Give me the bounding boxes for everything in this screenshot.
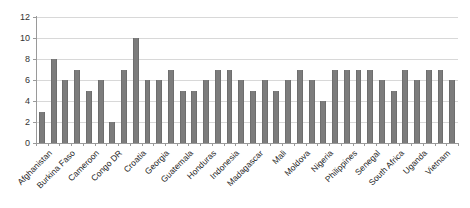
bar [109, 122, 115, 143]
bar [332, 70, 338, 144]
y-axis-tick-label: 6 [0, 75, 30, 85]
bar [39, 112, 45, 144]
x-axis-category-label-text: Vietnam [423, 148, 452, 177]
bar [367, 70, 373, 144]
bar [156, 80, 162, 143]
y-axis-tick-label: 10 [0, 33, 30, 43]
bar [449, 80, 455, 143]
bar [344, 70, 350, 144]
bar [168, 70, 174, 144]
bar [133, 38, 139, 143]
bar [238, 80, 244, 143]
bar [426, 70, 432, 144]
bar [51, 59, 57, 143]
bar [121, 70, 127, 144]
bar [309, 80, 315, 143]
bar [356, 70, 362, 144]
y-axis-tick-label: 12 [0, 12, 30, 22]
bar [180, 91, 186, 144]
bar [74, 70, 80, 144]
bar [250, 91, 256, 144]
bar [98, 80, 104, 143]
y-axis-tick-label: 8 [0, 54, 30, 64]
y-axis-tick-label: 2 [0, 117, 30, 127]
bar [438, 70, 444, 144]
bar [191, 91, 197, 144]
bar [62, 80, 68, 143]
bar [414, 80, 420, 143]
bar [203, 80, 209, 143]
x-axis-labels: AfghanistanBurkina FasoCameroonCongo DRC… [0, 146, 470, 208]
bar-series [36, 17, 458, 143]
bar [273, 91, 279, 144]
x-axis-category-label: Mali [270, 148, 288, 166]
bar [215, 70, 221, 144]
bar [285, 80, 291, 143]
bar [86, 91, 92, 144]
x-axis-category-label-text: Mali [270, 148, 288, 166]
bar [379, 80, 385, 143]
bar [320, 101, 326, 143]
bar [402, 70, 408, 144]
bar [391, 91, 397, 144]
x-axis-category-label: Vietnam [423, 148, 452, 177]
bar [227, 70, 233, 144]
bar [145, 80, 151, 143]
y-axis-tick-label: 4 [0, 96, 30, 106]
bar [262, 80, 268, 143]
bar [297, 70, 303, 144]
bar-chart: 024681012 AfghanistanBurkina FasoCameroo… [0, 0, 470, 208]
